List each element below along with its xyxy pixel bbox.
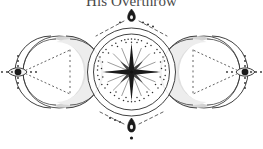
- star-center-dot: [130, 70, 133, 73]
- triple-moon-star-emblem: [0, 0, 263, 149]
- bottom-teardrop-ornament: [128, 118, 136, 140]
- center-circle-assembly: [88, 28, 176, 116]
- top-ray-dots: [119, 22, 154, 28]
- illustration-root: His Overthrow: [0, 0, 263, 149]
- page-title: His Overthrow: [0, 0, 263, 10]
- top-teardrop-ornament: [128, 9, 136, 21]
- right-eye-ornament: [236, 68, 255, 76]
- left-eye-ornament: [8, 68, 27, 76]
- bottom-ray-dots: [109, 117, 121, 123]
- emblem-group: [1, 9, 262, 140]
- bottom-accent-dot: [130, 136, 133, 139]
